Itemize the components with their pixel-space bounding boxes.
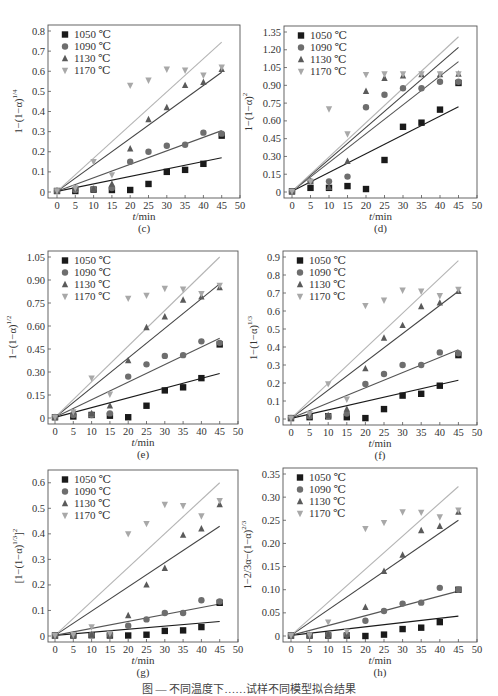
legend: 1050 ℃1090 ℃1130 ℃1170 ℃	[297, 254, 346, 302]
x-tick-label: 40	[198, 200, 209, 211]
y-tick-label: 0	[275, 631, 280, 642]
x-tick-label: 10	[88, 200, 99, 211]
circle-marker-icon	[162, 610, 168, 616]
x-tick-label: 45	[453, 644, 464, 655]
triangle-up-marker-icon	[180, 531, 186, 537]
circle-marker-icon	[297, 486, 303, 492]
circle-marker-icon	[125, 373, 131, 379]
triangle-up-marker-icon	[180, 296, 186, 302]
square-marker-icon	[198, 375, 204, 381]
x-tick-label: 30	[397, 644, 408, 655]
triangle-down-marker-icon	[109, 172, 115, 178]
legend-item-1050: 1050 ℃	[309, 471, 346, 483]
x-tick-label: 15	[105, 426, 116, 437]
legend-item-1170: 1170 ℃	[74, 290, 111, 302]
legend-item-1090: 1090 ℃	[74, 266, 111, 278]
x-tick-label: 5	[73, 200, 78, 211]
triangle-up-marker-icon	[381, 568, 387, 574]
triangle-up-marker-icon	[109, 180, 115, 186]
series-1090	[288, 585, 462, 639]
square-marker-icon	[418, 119, 424, 125]
y-tick-label: 0.7	[32, 46, 45, 57]
legend: 1050 ℃1090 ℃1130 ℃1170 ℃	[298, 29, 347, 77]
y-tick-label: 0.20	[262, 538, 280, 549]
circle-marker-icon	[399, 600, 405, 606]
x-tick-label: 30	[160, 644, 171, 655]
circle-marker-icon	[164, 143, 170, 149]
circle-marker-icon	[217, 598, 223, 604]
series-1050	[52, 341, 223, 420]
fit-line-1050	[55, 374, 220, 418]
x-tick-label: 5	[307, 644, 312, 655]
circle-marker-icon	[198, 338, 204, 344]
y-tick-label: 0.10	[262, 584, 280, 595]
chart-panel-g: 00.10.20.30.40.50.605101520253035404550t…	[11, 470, 243, 679]
triangle-up-marker-icon	[363, 88, 369, 94]
triangle-down-marker-icon	[198, 513, 204, 519]
square-marker-icon	[62, 31, 68, 37]
y-axis-label: 1−(1−α)2	[241, 92, 255, 131]
legend-item-1090: 1090 ℃	[74, 485, 111, 497]
triangle-down-marker-icon	[399, 288, 405, 294]
y-tick-label: 0.2	[32, 579, 45, 590]
circle-marker-icon	[180, 610, 186, 616]
y-tick-label: 0.75	[263, 98, 281, 109]
square-marker-icon	[399, 626, 405, 632]
square-marker-icon	[162, 628, 168, 634]
series-1050	[288, 352, 462, 421]
y-tick-label: 1.05	[27, 252, 45, 263]
y-tick-label: 0.8	[267, 270, 280, 281]
legend-item-1170: 1170 ℃	[74, 64, 111, 76]
circle-marker-icon	[62, 269, 68, 275]
x-tick-label: 30	[160, 426, 171, 437]
square-marker-icon	[127, 187, 133, 193]
x-tick-label: 35	[178, 644, 189, 655]
legend: 1050 ℃1090 ℃1130 ℃1170 ℃	[62, 28, 111, 76]
square-marker-icon	[162, 387, 168, 393]
triangle-up-marker-icon	[381, 334, 387, 340]
series-1170	[289, 71, 462, 195]
series-1090	[52, 597, 223, 639]
circle-marker-icon	[125, 623, 131, 629]
fit-line-1090	[55, 604, 220, 635]
y-tick-label: 0.3	[32, 554, 45, 565]
panel-label: (g)	[137, 666, 150, 679]
fit-line-1090	[291, 350, 458, 419]
series-1130	[52, 501, 223, 638]
x-tick-label: 10	[323, 644, 334, 655]
x-tick-label: 45	[216, 200, 227, 211]
legend-item-1130: 1130 ℃	[74, 278, 111, 290]
triangle-down-marker-icon	[344, 131, 350, 137]
circle-marker-icon	[62, 43, 68, 49]
circle-marker-icon	[198, 597, 204, 603]
triangle-down-marker-icon	[88, 375, 94, 381]
y-tick-label: 0.45	[263, 133, 281, 144]
series-1130	[289, 70, 462, 194]
legend: 1050 ℃1090 ℃1130 ℃1170 ℃	[62, 254, 111, 302]
triangle-up-marker-icon	[62, 55, 68, 61]
circle-marker-icon	[455, 350, 461, 356]
x-tick-label: 35	[416, 644, 427, 655]
y-axis-label: 1−(1−α)1/4	[11, 89, 25, 133]
square-marker-icon	[180, 384, 186, 390]
triangle-down-marker-icon	[344, 397, 350, 403]
y-tick-label: 0.2	[32, 146, 45, 157]
square-marker-icon	[198, 624, 204, 630]
y-tick-label: 0.9	[267, 252, 280, 263]
series-1090	[289, 79, 462, 195]
x-tick-label: 45	[453, 427, 464, 438]
x-tick-label: 40	[435, 200, 446, 211]
legend-item-1170: 1170 ℃	[74, 509, 111, 521]
y-tick-label: 0.5	[32, 503, 45, 514]
triangle-down-marker-icon	[381, 298, 387, 304]
chart-panel-f: 00.10.20.30.40.50.60.70.80.9051015202530…	[246, 251, 482, 462]
chart-panel-h: 00.050.100.150.200.250.300.3505101520253…	[240, 468, 482, 679]
circle-marker-icon	[381, 608, 387, 614]
square-marker-icon	[381, 406, 387, 412]
legend-item-1090: 1090 ℃	[309, 266, 346, 278]
triangle-up-marker-icon	[162, 313, 168, 319]
square-marker-icon	[381, 157, 387, 163]
triangle-down-marker-icon	[145, 78, 151, 84]
y-tick-label: 0	[40, 631, 45, 642]
circle-marker-icon	[143, 616, 149, 622]
